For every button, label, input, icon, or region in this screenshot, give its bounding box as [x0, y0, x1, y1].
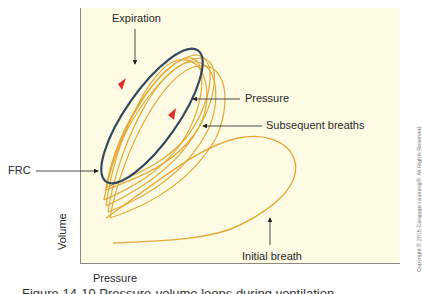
- expiration-label: Expiration: [112, 12, 161, 24]
- copyright-notice: Copyright © 2015 Cengage Learning®. All …: [416, 126, 422, 272]
- figure-caption: Figure 14-10 Pressure-volume loops durin…: [22, 287, 334, 294]
- y-axis-label: Volume: [56, 213, 68, 250]
- initial-breath-loop: [106, 136, 296, 243]
- direction-arrow-icon: [118, 78, 126, 90]
- x-axis-label: Pressure: [93, 272, 137, 284]
- subsequent-breaths-label: Subsequent breaths: [266, 119, 364, 131]
- pressure-annotation-label: Pressure: [245, 92, 289, 104]
- direction-arrow-icon: [168, 108, 176, 120]
- frc-label: FRC: [8, 164, 31, 176]
- initial-breath-label: Initial breath: [242, 250, 302, 262]
